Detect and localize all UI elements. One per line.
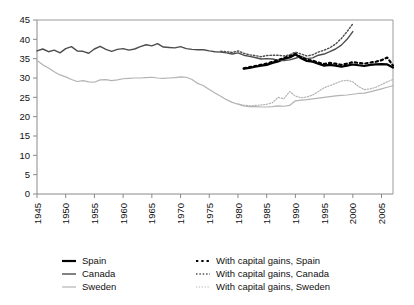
x-tick-label: 2000 bbox=[347, 203, 358, 224]
y-tick-label: 20 bbox=[19, 111, 30, 122]
x-tick-label: 1975 bbox=[204, 203, 215, 224]
y-tick-label: 10 bbox=[19, 150, 30, 161]
x-tick-label: 1980 bbox=[233, 203, 244, 224]
legend-left-entry: Spain bbox=[62, 255, 106, 266]
y-tick-label: 40 bbox=[19, 34, 30, 45]
x-tick-label: 1945 bbox=[32, 203, 43, 224]
chart-legend: SpainCanadaSwedenWith capital gains, Spa… bbox=[62, 255, 330, 292]
top-shares-line-chart: 051015202530354045 194519501955196019651… bbox=[0, 0, 414, 305]
series-canada bbox=[37, 32, 353, 61]
x-tick-label: 2005 bbox=[376, 203, 387, 224]
x-tick-label: 1965 bbox=[146, 203, 157, 224]
y-tick-label: 35 bbox=[19, 53, 30, 64]
series-with-capital-gains-canada bbox=[221, 24, 353, 57]
legend-label: Canada bbox=[82, 268, 116, 279]
legend-right-entry: With capital gains, Sweden bbox=[196, 281, 330, 292]
legend-right-entry: With capital gains, Spain bbox=[196, 255, 320, 266]
legend-right-entry: With capital gains, Canada bbox=[196, 268, 330, 279]
x-tick-label: 1960 bbox=[118, 203, 129, 224]
y-tick-label: 30 bbox=[19, 72, 30, 83]
series-with-capital-gains-sweden bbox=[238, 80, 393, 106]
y-tick-label: 15 bbox=[19, 130, 30, 141]
y-tick-label: 25 bbox=[19, 92, 30, 103]
legend-label: With capital gains, Spain bbox=[216, 255, 320, 266]
legend-label: With capital gains, Sweden bbox=[216, 281, 330, 292]
legend-label: Spain bbox=[82, 255, 106, 266]
chart-container: 051015202530354045 194519501955196019651… bbox=[0, 0, 414, 305]
legend-label: Sweden bbox=[82, 281, 116, 292]
x-tick-label: 1970 bbox=[175, 203, 186, 224]
x-tick-label: 1995 bbox=[319, 203, 330, 224]
legend-label: With capital gains, Canada bbox=[216, 268, 330, 279]
x-tick-label: 1985 bbox=[261, 203, 272, 224]
y-tick-label: 45 bbox=[19, 14, 30, 25]
x-tick-label: 1950 bbox=[60, 203, 71, 224]
y-axis-ticks: 051015202530354045 bbox=[19, 14, 37, 199]
x-axis-ticks: 1945195019551960196519701975198019851990… bbox=[32, 194, 393, 224]
legend-left-entry: Sweden bbox=[62, 281, 116, 292]
legend-left-entry: Canada bbox=[62, 268, 116, 279]
y-tick-label: 5 bbox=[25, 169, 30, 180]
series-lines bbox=[37, 24, 393, 107]
x-tick-label: 1955 bbox=[89, 203, 100, 224]
x-tick-label: 1990 bbox=[290, 203, 301, 224]
y-tick-label: 0 bbox=[25, 188, 30, 199]
